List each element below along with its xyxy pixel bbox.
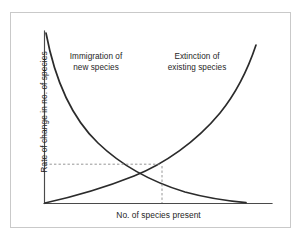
figure-root: Immigration of new species Extinction of… xyxy=(0,0,303,240)
x-axis-title: No. of species present xyxy=(44,210,273,220)
immigration-label: Immigration of new species xyxy=(57,52,135,73)
extinction-label: Extinction of existing species xyxy=(157,52,237,73)
y-axis-title: Rate of change in no. of species xyxy=(39,25,49,200)
